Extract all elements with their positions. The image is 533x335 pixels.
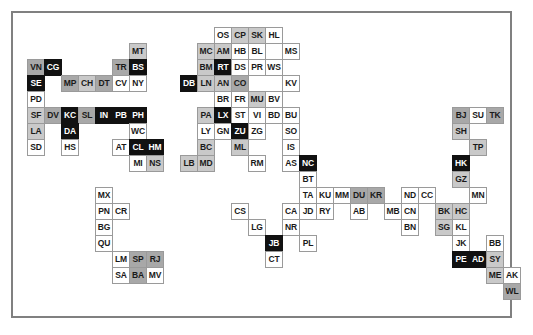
map-tile[interactable]: WL xyxy=(503,283,521,300)
map-tile[interactable]: PN xyxy=(95,203,113,220)
map-tile[interactable]: SU xyxy=(469,107,487,124)
map-tile[interactable]: DT xyxy=(95,75,113,92)
map-tile[interactable]: MI xyxy=(129,155,147,172)
map-tile[interactable]: KV xyxy=(282,75,300,92)
map-tile[interactable]: TA xyxy=(299,187,317,204)
map-tile[interactable]: SY xyxy=(486,251,504,268)
map-tile[interactable]: RJ xyxy=(146,251,164,268)
map-tile[interactable]: LY xyxy=(197,123,215,140)
map-tile[interactable]: CA xyxy=(282,203,300,220)
map-tile[interactable]: VN xyxy=(27,59,45,76)
map-tile[interactable]: DA xyxy=(61,123,79,140)
map-tile[interactable]: CP xyxy=(231,27,249,44)
map-tile[interactable]: PB xyxy=(112,107,130,124)
map-tile[interactable]: BD xyxy=(265,107,283,124)
map-tile[interactable]: SO xyxy=(282,123,300,140)
map-tile[interactable]: HK xyxy=(452,155,470,172)
map-tile[interactable]: KC xyxy=(61,107,79,124)
map-tile[interactable]: BU xyxy=(282,107,300,124)
map-tile[interactable]: BC xyxy=(197,139,215,156)
map-tile[interactable]: AK xyxy=(503,267,521,284)
map-tile[interactable]: SK xyxy=(248,27,266,44)
map-tile[interactable]: TR xyxy=(112,59,130,76)
map-tile[interactable]: BK xyxy=(435,203,453,220)
map-tile[interactable]: DS xyxy=(231,59,249,76)
map-tile[interactable]: SL xyxy=(78,107,96,124)
map-tile[interactable]: JB xyxy=(265,235,283,252)
map-tile[interactable]: MX xyxy=(95,187,113,204)
map-tile[interactable]: KL xyxy=(452,219,470,236)
map-tile[interactable]: KR xyxy=(367,187,385,204)
map-tile[interactable]: WC xyxy=(129,123,147,140)
map-tile[interactable]: SD xyxy=(27,139,45,156)
map-tile[interactable]: SP xyxy=(129,251,147,268)
map-tile[interactable]: CR xyxy=(112,203,130,220)
map-tile[interactable]: CS xyxy=(231,203,249,220)
map-tile[interactable]: MD xyxy=(197,155,215,172)
map-tile[interactable]: AD xyxy=(469,251,487,268)
map-tile[interactable]: BR xyxy=(214,91,232,108)
map-tile[interactable]: ND xyxy=(401,187,419,204)
map-tile[interactable]: DV xyxy=(44,107,62,124)
map-tile[interactable]: PE xyxy=(452,251,470,268)
map-tile[interactable]: CV xyxy=(112,75,130,92)
map-tile[interactable]: WS xyxy=(265,59,283,76)
map-tile[interactable]: HC xyxy=(452,203,470,220)
map-tile[interactable]: CG xyxy=(44,59,62,76)
map-tile[interactable]: LA xyxy=(27,123,45,140)
map-tile[interactable]: ZU xyxy=(231,123,249,140)
map-tile[interactable]: HS xyxy=(61,139,79,156)
map-tile[interactable]: CH xyxy=(78,75,96,92)
map-tile[interactable]: LB xyxy=(180,155,198,172)
map-tile[interactable]: MB xyxy=(384,203,402,220)
map-tile[interactable]: NY xyxy=(129,75,147,92)
map-tile[interactable]: MP xyxy=(61,75,79,92)
map-tile[interactable]: BV xyxy=(265,91,283,108)
map-tile[interactable]: HM xyxy=(146,139,164,156)
map-tile[interactable]: RT xyxy=(214,59,232,76)
map-tile[interactable]: RY xyxy=(316,203,334,220)
map-tile[interactable]: AM xyxy=(214,43,232,60)
map-tile[interactable]: CT xyxy=(265,251,283,268)
map-tile[interactable]: AN xyxy=(214,75,232,92)
map-tile[interactable]: BT xyxy=(299,171,317,188)
map-tile[interactable]: LG xyxy=(248,219,266,236)
map-tile[interactable]: JK xyxy=(452,235,470,252)
map-tile[interactable]: SA xyxy=(112,267,130,284)
map-tile[interactable]: PA xyxy=(197,107,215,124)
map-tile[interactable]: SH xyxy=(452,123,470,140)
map-tile[interactable]: HB xyxy=(231,43,249,60)
map-tile[interactable]: PD xyxy=(27,91,45,108)
map-tile[interactable]: TP xyxy=(469,139,487,156)
map-tile[interactable]: OS xyxy=(214,27,232,44)
map-tile[interactable]: GZ xyxy=(452,171,470,188)
map-tile[interactable]: BJ xyxy=(452,107,470,124)
map-tile[interactable]: MN xyxy=(469,187,487,204)
map-tile[interactable]: IN xyxy=(95,107,113,124)
map-tile[interactable]: LM xyxy=(112,251,130,268)
map-tile[interactable]: BL xyxy=(248,43,266,60)
map-tile[interactable]: MT xyxy=(129,43,147,60)
map-tile[interactable]: JD xyxy=(299,203,317,220)
map-tile[interactable]: ME xyxy=(486,267,504,284)
map-tile[interactable]: AT xyxy=(112,139,130,156)
map-tile[interactable]: PH xyxy=(129,107,147,124)
map-tile[interactable]: ZG xyxy=(248,123,266,140)
map-tile[interactable]: LN xyxy=(197,75,215,92)
map-tile[interactable]: SF xyxy=(27,107,45,124)
map-tile[interactable]: BB xyxy=(486,235,504,252)
map-tile[interactable]: NC xyxy=(299,155,317,172)
map-tile[interactable]: NR xyxy=(282,219,300,236)
map-tile[interactable]: TK xyxy=(486,107,504,124)
map-tile[interactable]: SG xyxy=(435,219,453,236)
map-tile[interactable]: SE xyxy=(27,75,45,92)
map-tile[interactable]: CC xyxy=(418,187,436,204)
map-tile[interactable]: BN xyxy=(401,219,419,236)
map-tile[interactable]: DB xyxy=(180,75,198,92)
map-tile[interactable]: DU xyxy=(350,187,368,204)
map-tile[interactable]: FR xyxy=(231,91,249,108)
map-tile[interactable]: NS xyxy=(146,155,164,172)
map-tile[interactable]: QU xyxy=(95,235,113,252)
map-tile[interactable]: IS xyxy=(282,139,300,156)
map-tile[interactable]: LX xyxy=(214,107,232,124)
